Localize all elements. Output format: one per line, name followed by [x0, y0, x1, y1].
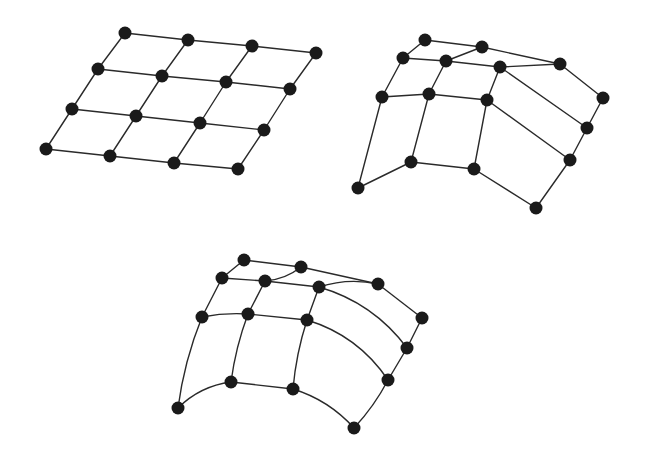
mesh-node-r0c1	[182, 34, 195, 47]
mesh-node-K	[401, 342, 414, 355]
mesh-node-r2c3	[258, 124, 271, 137]
mesh-node-r0c3	[310, 47, 323, 60]
mesh-node-F	[313, 281, 326, 294]
mesh-node-F	[494, 61, 507, 74]
mesh-node-P	[348, 422, 361, 435]
mesh-node-E	[259, 275, 272, 288]
mesh-node-G	[196, 311, 209, 324]
mesh-node-r3c1	[104, 150, 117, 163]
mesh-node-N	[382, 374, 395, 387]
mesh-node-E	[440, 55, 453, 68]
mesh-node-r1c0	[92, 63, 105, 76]
mesh-node-C	[372, 278, 385, 291]
mesh-node-C	[554, 58, 567, 71]
mesh-node-r0c0	[119, 27, 132, 40]
mesh-node-r3c2	[168, 157, 181, 170]
mesh-node-J	[416, 312, 429, 325]
mesh-node-O	[172, 402, 185, 415]
mesh-node-L	[225, 376, 238, 389]
mesh-node-r1c2	[220, 76, 233, 89]
mesh-node-N	[564, 154, 577, 167]
mesh-node-H	[242, 308, 255, 321]
mesh-node-r1c1	[156, 70, 169, 83]
mesh-node-G	[376, 91, 389, 104]
mesh-node-K	[581, 122, 594, 135]
mesh-node-B	[476, 41, 489, 54]
mesh-node-A	[419, 34, 432, 47]
mesh-node-H	[423, 88, 436, 101]
mesh-node-I	[301, 314, 314, 327]
mesh-node-r2c2	[194, 117, 207, 130]
mesh-node-r3c0	[40, 143, 53, 156]
mesh-node-r1c3	[284, 83, 297, 96]
mesh-node-I	[481, 94, 494, 107]
mesh-node-D	[397, 52, 410, 65]
mesh-node-P	[530, 202, 543, 215]
mesh-node-M	[287, 383, 300, 396]
mesh-node-M	[468, 163, 481, 176]
mesh-node-L	[405, 156, 418, 169]
mesh-diagram: Flat 4x4 grid mesh Deformed grid mesh wi…	[0, 0, 647, 458]
mesh-node-J	[597, 92, 610, 105]
mesh-node-D	[216, 272, 229, 285]
mesh-node-r3c3	[232, 163, 245, 176]
mesh-node-B	[295, 261, 308, 274]
mesh-node-r2c1	[130, 110, 143, 123]
mesh-node-r2c0	[66, 103, 79, 116]
mesh-node-r0c2	[246, 40, 259, 53]
mesh-node-A	[238, 254, 251, 267]
mesh-node-O	[352, 182, 365, 195]
